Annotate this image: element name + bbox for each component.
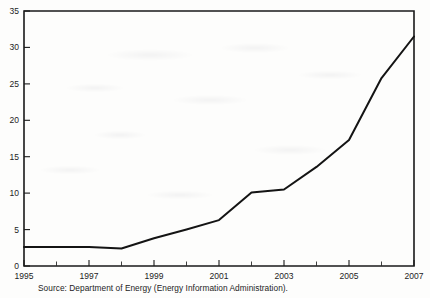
x-tick-label: 1995 xyxy=(15,271,34,281)
axis-frame xyxy=(24,11,414,266)
line-chart: 0 5 10 15 20 25 30 35 1995 1997 1999 200… xyxy=(0,0,430,298)
x-tick-label: 1997 xyxy=(80,271,99,281)
x-tick-label: 1999 xyxy=(145,271,164,281)
x-axis-tick-labels: 1995 1997 1999 2001 2003 2005 2007 xyxy=(15,271,424,281)
x-tick-label: 2007 xyxy=(405,271,424,281)
y-tick-marks xyxy=(24,11,30,266)
source-note: Source: Department of Energy (Energy Inf… xyxy=(38,283,288,293)
y-tick-label: 35 xyxy=(10,6,20,16)
x-tick-label: 2005 xyxy=(340,271,359,281)
y-tick-label: 25 xyxy=(10,79,20,89)
y-tick-label: 10 xyxy=(10,188,20,198)
y-tick-label: 0 xyxy=(14,261,19,271)
y-tick-label: 30 xyxy=(10,42,20,52)
y-tick-label: 15 xyxy=(10,152,20,162)
x-tick-label: 2003 xyxy=(275,271,294,281)
y-axis-tick-labels: 0 5 10 15 20 25 30 35 xyxy=(10,6,20,271)
plot-axes xyxy=(24,11,414,266)
chart-figure: 0 5 10 15 20 25 30 35 1995 1997 1999 200… xyxy=(0,0,430,298)
x-tick-label: 2001 xyxy=(210,271,229,281)
data-series-line xyxy=(24,37,414,249)
y-tick-label: 5 xyxy=(14,225,19,235)
y-tick-label: 20 xyxy=(10,115,20,125)
x-tick-marks xyxy=(24,260,414,266)
